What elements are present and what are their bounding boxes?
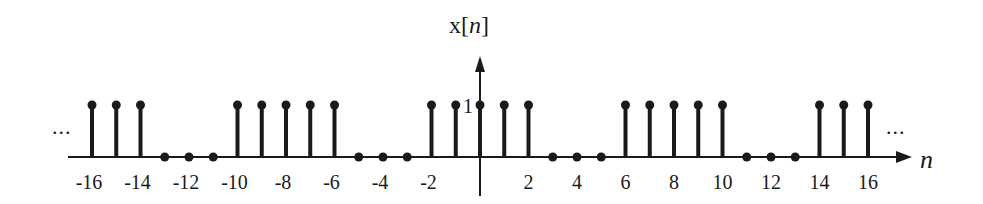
stem-marker: [451, 101, 460, 110]
zero-marker: [767, 153, 776, 162]
plot-title: x[n]: [449, 12, 489, 39]
left-ellipsis: ...: [52, 114, 72, 140]
stem-marker: [645, 101, 654, 110]
stem-marker: [136, 101, 145, 110]
zero-marker: [185, 153, 194, 162]
title-prefix: x[: [449, 12, 469, 38]
zero-marker: [548, 153, 557, 162]
zero-marker: [573, 153, 582, 162]
stem-marker: [670, 101, 679, 110]
zero-marker: [742, 153, 751, 162]
x-tick-label: -16: [76, 171, 103, 194]
x-tick-label: -8: [275, 171, 292, 194]
y-axis-arrow: [475, 56, 485, 72]
x-tick-label: -4: [372, 171, 389, 194]
stem-marker: [330, 101, 339, 110]
title-variable: n: [469, 12, 481, 38]
x-axis-arrow: [896, 151, 912, 163]
stem-marker: [524, 101, 533, 110]
stem-marker: [306, 101, 315, 110]
x-tick-label: 10: [713, 171, 733, 194]
x-tick-label: 8: [669, 171, 679, 194]
stem-marker: [815, 101, 824, 110]
x-tick-label: -10: [221, 171, 248, 194]
x-axis-label: n: [920, 145, 933, 175]
y-tick-one: 1: [463, 95, 473, 118]
zero-marker: [354, 153, 363, 162]
stem-marker: [112, 101, 121, 110]
x-tick-label: 4: [572, 171, 582, 194]
stem-marker: [500, 101, 509, 110]
x-tick-label: 6: [621, 171, 631, 194]
stem-marker: [621, 101, 630, 110]
zero-marker: [597, 153, 606, 162]
zero-marker: [403, 153, 412, 162]
stem-marker: [694, 101, 703, 110]
x-tick-label: 14: [810, 171, 830, 194]
stem-marker: [282, 101, 291, 110]
x-tick-label: -2: [420, 171, 437, 194]
zero-marker: [791, 153, 800, 162]
stem-marker: [839, 101, 848, 110]
x-tick-label: 16: [858, 171, 878, 194]
stem-marker: [427, 101, 436, 110]
stem-marker: [476, 101, 485, 110]
zero-marker: [209, 153, 218, 162]
x-tick-label: -12: [173, 171, 200, 194]
x-tick-label: -6: [323, 171, 340, 194]
x-tick-label: -14: [124, 171, 151, 194]
stem-marker: [233, 101, 242, 110]
zero-marker: [379, 153, 388, 162]
x-tick-label: 2: [524, 171, 534, 194]
stem-marker: [718, 101, 727, 110]
stem-marker: [257, 101, 266, 110]
stem-marker: [88, 101, 97, 110]
right-ellipsis: ...: [886, 114, 906, 140]
zero-marker: [160, 153, 169, 162]
stem-marker: [864, 101, 873, 110]
title-suffix: ]: [481, 12, 489, 38]
x-tick-label: 12: [761, 171, 781, 194]
